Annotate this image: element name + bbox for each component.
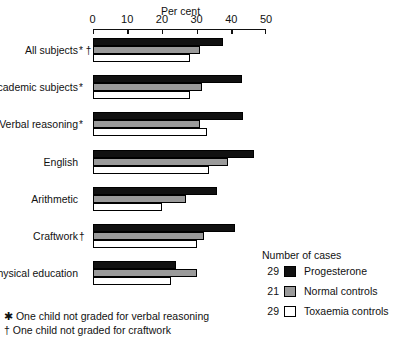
footnote-1: ✱ One child not graded for verbal reason… xyxy=(4,310,209,322)
bar-toxaemia xyxy=(93,277,171,285)
legend-count: 29 xyxy=(262,265,279,277)
category-label-physical-education: Physical education xyxy=(0,267,78,279)
bar-progesterone xyxy=(93,75,242,83)
legend-swatch-normal-icon xyxy=(284,286,296,297)
bar-toxaemia xyxy=(93,128,208,136)
legend-item-normal: 21Normal controls xyxy=(262,285,378,297)
legend-label: Toxaemia controls xyxy=(304,305,389,317)
bar-toxaemia xyxy=(93,166,209,174)
legend-count: 21 xyxy=(262,285,279,297)
legend-label: Normal controls xyxy=(304,285,378,297)
category-footnote-mark: * xyxy=(79,119,83,130)
bar-toxaemia xyxy=(93,203,162,211)
x-tick-mark xyxy=(162,29,163,34)
category-label-craftwork: Craftwork xyxy=(33,230,78,242)
footnote-2: † One child not graded for craftwork xyxy=(4,324,171,336)
bar-normal xyxy=(93,195,187,203)
category-footnote-mark: † xyxy=(79,231,85,242)
x-tick-label-50: 50 xyxy=(260,13,272,25)
category-label-all-subjects: All subjects xyxy=(25,44,78,56)
x-tick-label-10: 10 xyxy=(121,13,133,25)
bar-progesterone xyxy=(93,150,254,158)
legend-label: Progesterone xyxy=(304,265,367,277)
bar-progesterone xyxy=(93,112,244,120)
bar-progesterone xyxy=(93,38,223,46)
x-tick-mark xyxy=(93,29,94,34)
category-label-academic-subjects: Academic subjects xyxy=(0,81,78,93)
bar-progesterone xyxy=(93,187,218,195)
x-tick-mark xyxy=(231,29,232,34)
legend-swatch-toxaemia-icon xyxy=(284,306,296,317)
axis-baseline xyxy=(93,29,267,30)
category-label-arithmetic: Arithmetic xyxy=(31,193,78,205)
bar-normal xyxy=(93,46,201,54)
category-label-english: English xyxy=(44,156,78,168)
x-tick-mark xyxy=(265,29,266,34)
bar-normal xyxy=(93,83,202,91)
bar-normal xyxy=(93,120,201,128)
bar-chart: Per cent 01020304050 All subjects* †Acad… xyxy=(0,0,393,346)
x-tick-label-0: 0 xyxy=(89,13,95,25)
category-footnote-mark: * xyxy=(79,82,83,93)
x-tick-mark xyxy=(197,29,198,34)
bar-normal xyxy=(93,158,228,166)
x-tick-label-20: 20 xyxy=(156,13,168,25)
legend-item-progesterone: 29Progesterone xyxy=(262,265,367,277)
legend-count: 29 xyxy=(262,305,279,317)
bar-toxaemia xyxy=(93,240,197,248)
x-tick-mark xyxy=(127,29,128,34)
category-footnote-mark: * † xyxy=(79,45,91,56)
legend-title: Number of cases xyxy=(262,249,341,261)
bar-toxaemia xyxy=(93,54,190,62)
bar-normal xyxy=(93,269,197,277)
bar-toxaemia xyxy=(93,91,190,99)
bar-normal xyxy=(93,232,204,240)
legend-item-toxaemia: 29Toxaemia controls xyxy=(262,305,389,317)
bar-progesterone xyxy=(93,261,176,269)
x-tick-label-30: 30 xyxy=(190,13,202,25)
legend-swatch-progesterone-icon xyxy=(284,266,296,277)
category-label-verbal-reasoning: Verbal reasoning xyxy=(0,118,78,130)
x-tick-label-40: 40 xyxy=(225,13,237,25)
bar-progesterone xyxy=(93,224,235,232)
